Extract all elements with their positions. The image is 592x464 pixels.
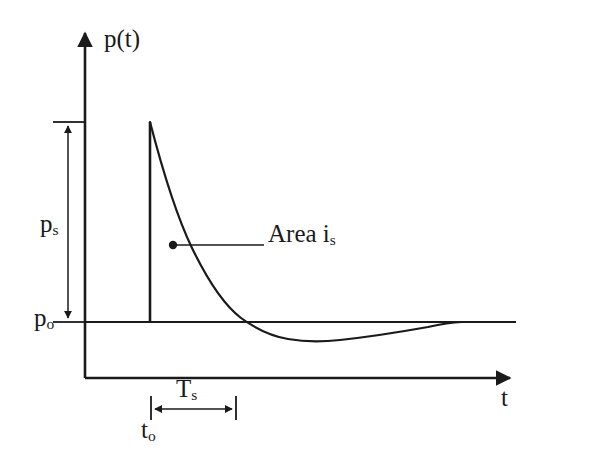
to-base: t (141, 416, 148, 443)
po-base: p (34, 304, 47, 331)
pressure-axis-label: p(t) (104, 26, 140, 51)
positive-duration-label: Ts (176, 376, 197, 401)
impulse-area-callout (169, 241, 264, 249)
ts-subscript: s (191, 386, 197, 403)
ps-base: p (40, 210, 53, 237)
ts-base: T (176, 375, 191, 402)
area-subscript: s (330, 231, 336, 248)
ps-subscript: s (53, 221, 59, 238)
to-subscript: o (148, 427, 156, 444)
ambient-pressure-label: po (34, 305, 54, 330)
time-axis-label: t (501, 385, 508, 410)
blast-wave-figure: p(t) ps po Area is Ts to t (0, 0, 592, 464)
arrival-time-label: to (141, 417, 156, 442)
impulse-area-label: Area is (268, 221, 336, 246)
peak-overpressure-label: ps (40, 211, 59, 236)
area-base: Area i (268, 220, 330, 247)
po-subscript: o (47, 315, 55, 332)
